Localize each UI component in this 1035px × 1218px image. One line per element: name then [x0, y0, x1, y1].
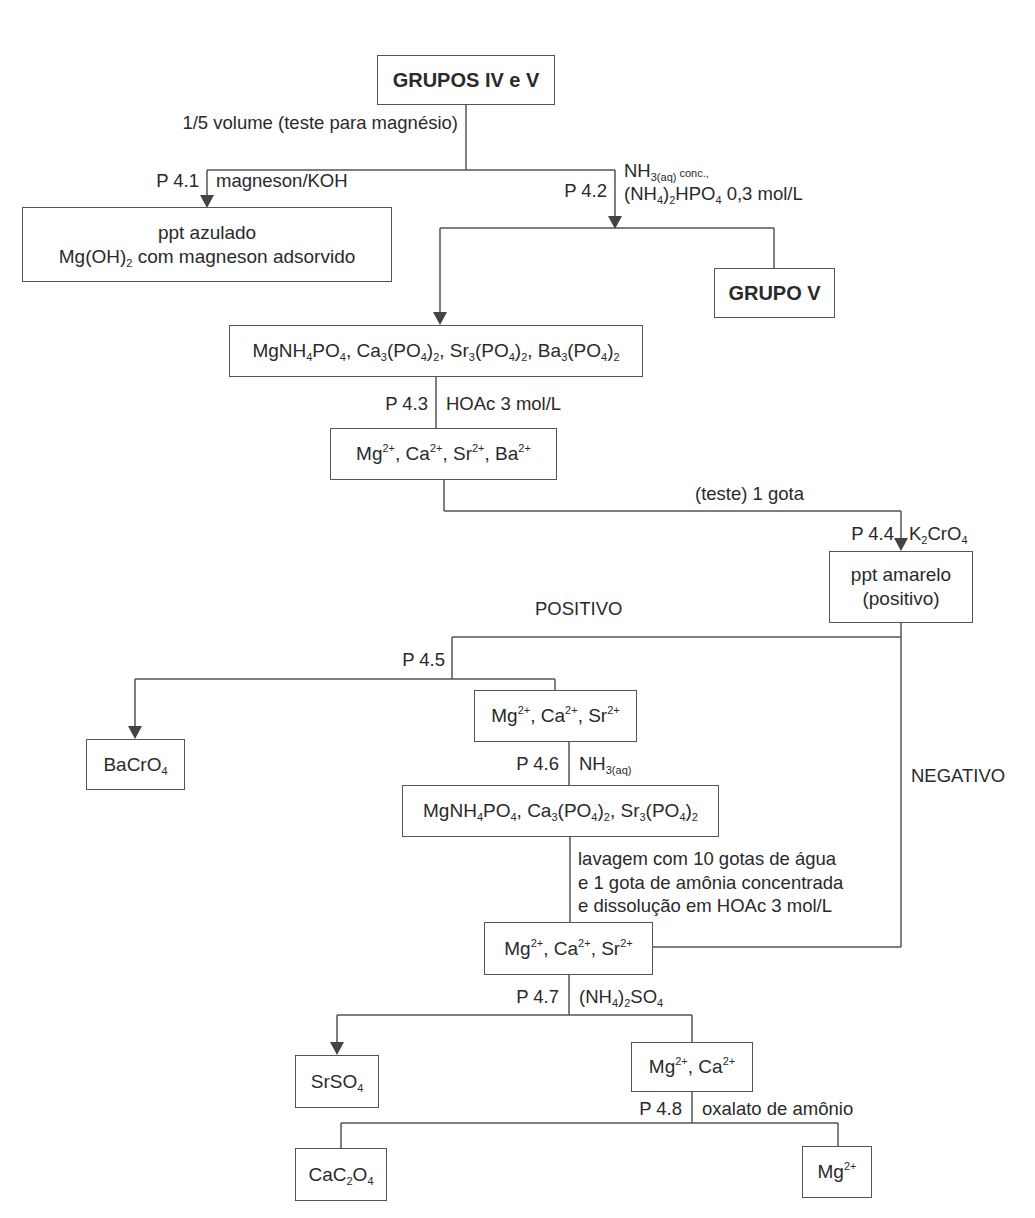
wash-line-1: lavagem com 10 gotas de água — [578, 847, 843, 871]
node-label: Mg2+, Ca2+, Sr2+ — [491, 704, 619, 728]
step-reagent-p47: (NH4)2SO4 — [579, 985, 663, 1008]
node-label-line1: ppt azulado — [158, 221, 256, 245]
negative-label: NEGATIVO — [911, 764, 1005, 787]
node-label-line2: (positivo) — [862, 587, 939, 611]
node-ions-mg-ca-sr-1: Mg2+, Ca2+, Sr2+ — [474, 690, 637, 742]
node-label: Mg2+, Ca2+, Sr2+ — [504, 937, 632, 961]
step-reagent-p42: NH3(aq) conc.,(NH4)2HPO4 0,3 mol/L — [624, 159, 803, 205]
node-label: Mg2+, Ca2+, Sr2+, Ba2+ — [356, 442, 531, 466]
arrowhead-icon — [433, 312, 447, 325]
step-code-p48: P 4.8 — [639, 1097, 682, 1120]
node-label: SrSO4 — [311, 1070, 364, 1094]
node-phosphates-mg-ca-sr: MgNH4PO4, Ca3(PO4)2, Sr3(PO4)2 — [402, 785, 719, 837]
arrowhead-icon — [128, 726, 142, 739]
node-label-line2: Mg(OH)2 com magneson adsorvido — [59, 245, 356, 269]
arrowhead-icon — [608, 216, 622, 229]
node-label: BaCrO4 — [103, 753, 167, 777]
step-code-p45: P 4.5 — [402, 648, 445, 671]
node-ions-mg-ca-sr-2: Mg2+, Ca2+, Sr2+ — [484, 922, 653, 975]
node-ions-mg-ca: Mg2+, Ca2+ — [631, 1042, 753, 1092]
wash-line-3: e dissolução em HOAc 3 mol/L — [578, 894, 843, 918]
split-label: 1/5 volume (teste para magnésio) — [182, 111, 458, 134]
arrowhead-icon — [894, 538, 908, 551]
step-code-p47: P 4.7 — [516, 985, 559, 1008]
node-mg-final: Mg2+ — [802, 1146, 872, 1198]
node-label: GRUPO V — [728, 281, 820, 306]
step-reagent-p48: oxalato de amônio — [702, 1097, 853, 1120]
node-ions-all: Mg2+, Ca2+, Sr2+, Ba2+ — [330, 428, 557, 480]
node-grupo-v: GRUPO V — [714, 268, 835, 318]
node-srso4: SrSO4 — [295, 1055, 379, 1108]
node-label-line1: ppt amarelo — [851, 563, 951, 587]
step-reagent-p41: magneson/KOH — [216, 169, 348, 192]
step-reagent-p43: HOAc 3 mol/L — [446, 392, 561, 415]
step-code-p42: P 4.2 — [564, 179, 607, 202]
node-bacro4: BaCrO4 — [86, 739, 185, 790]
step-reagent-p44: K2CrO4 — [909, 522, 968, 545]
node-label: MgNH4PO4, Ca3(PO4)2, Sr3(PO4)2 — [423, 799, 698, 823]
arrowhead-icon — [330, 1042, 344, 1055]
node-phosphates-all: MgNH4PO4, Ca3(PO4)2, Sr3(PO4)2, Ba3(PO4)… — [229, 325, 643, 377]
node-yellow-ppt: ppt amarelo (positivo) — [829, 551, 973, 623]
wash-line-2: e 1 gota de amônia concentrada — [578, 871, 843, 895]
test-drop-label: (teste) 1 gota — [695, 482, 804, 505]
node-mg-test-result: ppt azulado Mg(OH)2 com magneson adsorvi… — [22, 207, 392, 282]
node-label: Mg2+, Ca2+ — [649, 1055, 735, 1079]
step-reagent-p46: NH3(aq) — [579, 752, 631, 775]
node-cac2o4: CaC2O4 — [295, 1148, 387, 1201]
step-code-p41: P 4.1 — [156, 169, 199, 192]
positive-label: POSITIVO — [535, 597, 622, 620]
node-label: Mg2+ — [818, 1160, 857, 1184]
step-code-p43: P 4.3 — [385, 392, 428, 415]
node-label: CaC2O4 — [308, 1163, 373, 1187]
step-code-p46: P 4.6 — [516, 752, 559, 775]
step-code-p44: P 4.4 — [851, 522, 894, 545]
node-grupos-iv-v: GRUPOS IV e V — [377, 55, 555, 105]
node-label: GRUPOS IV e V — [393, 68, 540, 93]
wash-instructions: lavagem com 10 gotas de água e 1 gota de… — [578, 847, 843, 918]
node-label: MgNH4PO4, Ca3(PO4)2, Sr3(PO4)2, Ba3(PO4)… — [252, 339, 619, 363]
